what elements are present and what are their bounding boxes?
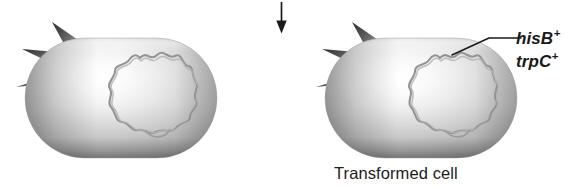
bacterial-transformation-illustration [0,0,588,188]
gene-label-hisb-superscript: + [554,27,561,39]
gene-label-hisb-text: hisB [516,29,553,48]
transformed-cell-body [325,38,517,158]
gene-label-hisb: hisB+ [516,30,561,47]
downward-process-arrow [276,2,286,34]
recipient-cell-body [25,38,217,158]
gene-label-trpc-superscript: + [552,50,559,62]
gene-label-trpc-text: trpC [516,52,551,71]
recipient-cell [16,22,217,158]
transformed-cell [316,22,521,158]
gene-label-trpc: trpC+ [516,53,559,70]
caption-transformed-cell: Transformed cell [334,164,458,183]
figure-canvas: hisB+ trpC+ Transformed cell [0,0,588,188]
